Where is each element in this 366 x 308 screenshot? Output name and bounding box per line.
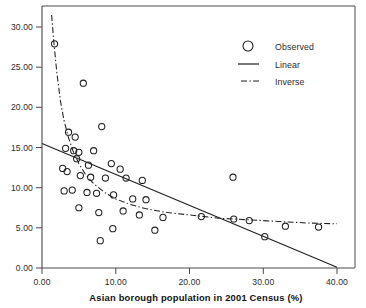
x-tick-label: 20.00: [178, 277, 200, 287]
data-point-marker: [282, 223, 288, 229]
chart-legend: Observed Linear Inverse: [238, 41, 314, 87]
data-point-marker: [130, 196, 136, 202]
chart-figure: 0.00 5.00 10.00 15.00 20.00 25.00 30.00 …: [0, 0, 366, 308]
data-point-marker: [120, 208, 126, 214]
x-tick-label: 40.00: [326, 277, 348, 287]
legend-observed-marker-icon: [243, 41, 253, 51]
data-point-marker: [63, 145, 69, 151]
data-point-marker: [72, 134, 78, 140]
data-point-marker: [230, 174, 236, 180]
data-point-marker: [91, 148, 97, 154]
legend-label-observed: Observed: [275, 42, 314, 52]
data-point-marker: [110, 226, 116, 232]
linear-fit-path: [42, 143, 337, 267]
data-point-marker: [108, 160, 114, 166]
data-point-marker: [77, 173, 83, 179]
data-point-marker: [139, 177, 145, 183]
x-axis-title: Asian borough population in 2001 Census …: [89, 292, 302, 303]
y-tick-label: 20.00: [11, 102, 33, 112]
data-point-marker: [102, 175, 108, 181]
y-tick-label: 30.00: [11, 22, 33, 32]
data-point-marker: [64, 169, 70, 175]
legend-label-linear: Linear: [275, 60, 300, 70]
y-axis-ticks: 0.00 5.00 10.00 15.00 20.00 25.00 30.00: [11, 22, 42, 273]
data-point-marker: [96, 209, 102, 215]
data-point-marker: [136, 212, 142, 218]
data-point-marker: [65, 129, 71, 135]
y-tick-label: 15.00: [11, 143, 33, 153]
linear-fit-line: [42, 143, 337, 267]
data-point-marker: [80, 80, 86, 86]
y-tick-label: 0.00: [16, 263, 33, 273]
data-point-marker: [69, 187, 75, 193]
data-point-marker: [152, 227, 158, 233]
data-point-marker: [84, 189, 90, 195]
observed-data-points: [51, 41, 321, 244]
x-tick-label: 30.00: [252, 277, 274, 287]
data-point-marker: [61, 188, 67, 194]
x-tick-label: 10.00: [105, 277, 127, 287]
x-tick-label: 0.00: [33, 277, 50, 287]
y-tick-label: 5.00: [16, 223, 33, 233]
data-point-marker: [93, 190, 99, 196]
legend-label-inverse: Inverse: [275, 77, 305, 87]
data-point-marker: [160, 214, 166, 220]
data-point-marker: [76, 205, 82, 211]
data-point-marker: [143, 197, 149, 203]
data-point-marker: [99, 124, 105, 130]
y-tick-label: 10.00: [11, 183, 33, 193]
data-point-marker: [315, 224, 321, 230]
data-point-marker: [88, 174, 94, 180]
data-point-marker: [97, 238, 103, 244]
y-tick-label: 25.00: [11, 62, 33, 72]
data-point-marker: [60, 165, 66, 171]
x-axis-ticks: 0.00 10.00 20.00 30.00 40.00: [33, 268, 348, 287]
scatter-plot: 0.00 5.00 10.00 15.00 20.00 25.00 30.00 …: [0, 0, 366, 308]
data-point-marker: [117, 166, 123, 172]
data-point-marker: [246, 218, 252, 224]
